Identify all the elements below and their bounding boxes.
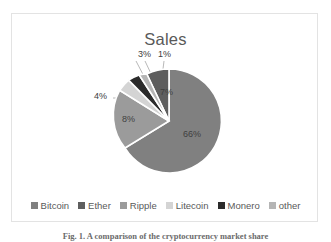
legend-label-monero: Monero	[228, 200, 260, 211]
legend-item-ripple[interactable]: Ripple	[120, 200, 157, 211]
data-label-bitcoin: 66%	[183, 130, 201, 139]
legend-swatch-ripple	[120, 202, 127, 209]
legend-swatch-monero	[218, 202, 225, 209]
legend-label-other: other	[279, 200, 301, 211]
legend-swatch-litecoin	[166, 202, 173, 209]
pie-plot-area: 66% 7% 8% 4% 3% 1%	[12, 14, 319, 189]
data-label-litecoin: 4%	[94, 92, 107, 101]
legend-swatch-ether	[78, 202, 85, 209]
chart-frame: Sales	[11, 13, 318, 222]
legend-label-litecoin: Litecoin	[176, 200, 209, 211]
legend-label-bitcoin: Bitcoin	[41, 200, 70, 211]
pie-chart-svg	[12, 14, 319, 189]
chart-legend: Bitcoin Ether Ripple Litecoin Monero oth…	[12, 200, 319, 211]
figure-caption: Fig. 1. A comparison of the cryptocurren…	[0, 231, 331, 241]
figure-container: Sales	[0, 0, 331, 242]
data-label-ether: 7%	[160, 88, 173, 97]
data-label-other: 1%	[158, 50, 171, 59]
legend-item-monero[interactable]: Monero	[218, 200, 260, 211]
legend-swatch-bitcoin	[31, 202, 38, 209]
legend-item-litecoin[interactable]: Litecoin	[166, 200, 209, 211]
data-label-monero: 3%	[138, 50, 151, 59]
legend-label-ripple: Ripple	[130, 200, 157, 211]
legend-label-ether: Ether	[88, 200, 111, 211]
legend-item-other[interactable]: other	[269, 200, 301, 211]
legend-swatch-other	[269, 202, 276, 209]
legend-item-bitcoin[interactable]: Bitcoin	[31, 200, 70, 211]
legend-item-ether[interactable]: Ether	[78, 200, 111, 211]
data-label-ripple: 8%	[122, 115, 135, 124]
